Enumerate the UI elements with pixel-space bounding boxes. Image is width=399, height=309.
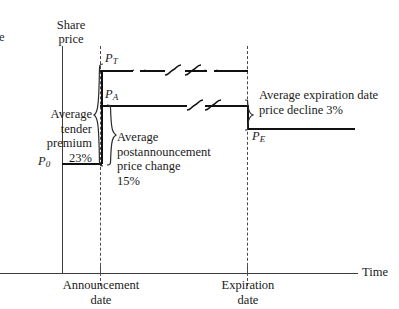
price-label-pa-base: P bbox=[105, 87, 113, 101]
line-break-dots-left: · · bbox=[131, 66, 149, 74]
brace-tender-premium bbox=[93, 63, 105, 167]
clipped-edge-glyph: e bbox=[0, 30, 5, 45]
price-label-pt-base: P bbox=[105, 51, 113, 65]
price-label-pe-base: P bbox=[252, 129, 260, 143]
x-tick-label-expiration: Expiration date bbox=[205, 278, 291, 307]
x-axis-line bbox=[0, 273, 358, 274]
price-label-p0-sub: 0 bbox=[46, 159, 51, 169]
brace-expiration-decline bbox=[243, 99, 254, 131]
merger-arbitrage-share-price-diagram: e Share price Time · · · · bbox=[0, 0, 399, 309]
x-axis-title: Time bbox=[362, 265, 388, 279]
x-tick-label-announcement: Announcement date bbox=[48, 278, 154, 307]
price-label-pt-sub: T bbox=[113, 56, 118, 66]
price-label-pa: PA bbox=[105, 87, 118, 102]
annotation-expiration-decline: Average expiration date price decline 3% bbox=[259, 88, 399, 117]
price-label-pe-sub: E bbox=[260, 134, 266, 144]
price-label-pe: PE bbox=[252, 129, 265, 144]
price-label-p0-base: P bbox=[38, 154, 46, 168]
line-break-dots-right: · · bbox=[203, 66, 221, 74]
annotation-postannouncement-change: Average postannouncement price change 15… bbox=[117, 130, 217, 188]
axis-break-squiggle-icon bbox=[186, 97, 206, 113]
axis-break-squiggle-icon bbox=[184, 62, 204, 78]
expiration-date-gridline bbox=[247, 46, 248, 286]
tick-mark-expiration bbox=[247, 266, 248, 273]
price-label-pt: PT bbox=[105, 51, 118, 66]
axis-break-squiggle-icon bbox=[204, 97, 224, 113]
y-axis-title: Share price bbox=[45, 18, 97, 46]
price-label-p0: P0 bbox=[38, 154, 50, 169]
price-label-pa-sub: A bbox=[113, 92, 119, 102]
axis-break-squiggle-icon bbox=[164, 62, 184, 78]
brace-postannouncement-change bbox=[105, 104, 117, 166]
tick-mark-announcement bbox=[100, 266, 101, 273]
